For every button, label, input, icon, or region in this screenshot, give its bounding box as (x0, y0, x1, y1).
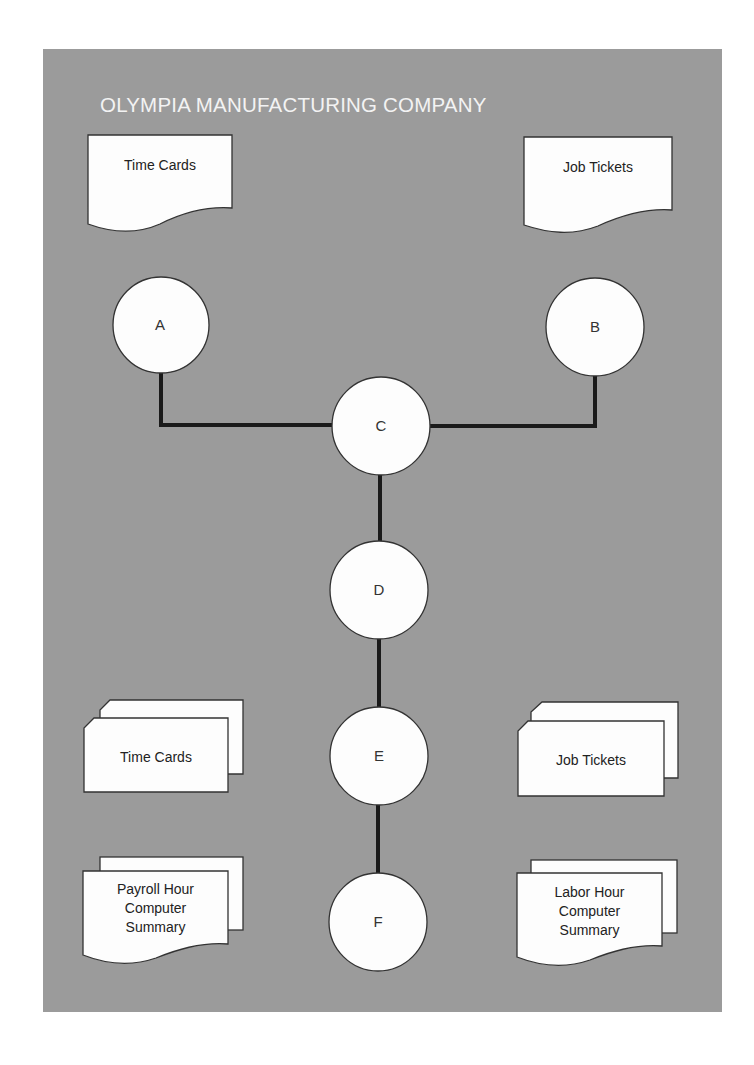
report-label-line: Computer (125, 899, 186, 918)
report-label-line: Summary (560, 921, 620, 940)
node-label-a: A (140, 315, 180, 335)
document-label-job-tickets: Job Tickets (524, 152, 672, 182)
card-deck-label-job-tickets: Job Tickets (518, 745, 664, 775)
node-label-f: F (358, 912, 398, 932)
report-label-line: Labor Hour (554, 883, 624, 902)
document-label-time-cards: Time Cards (88, 150, 232, 180)
node-label-c: C (361, 416, 401, 436)
report-label-line: Summary (126, 918, 186, 937)
report-label-line: Payroll Hour (117, 880, 194, 899)
report-label-line: Computer (559, 902, 620, 921)
connector-a-c (161, 373, 333, 425)
report-label-labor: Labor Hour Computer Summary (517, 880, 662, 942)
node-label-e: E (359, 746, 399, 766)
card-deck-label-time-cards: Time Cards (84, 742, 228, 772)
report-label-payroll: Payroll Hour Computer Summary (83, 877, 228, 939)
node-label-b: B (575, 317, 615, 337)
node-label-d: D (359, 580, 399, 600)
diagram-title: OLYMPIA MANUFACTURING COMPANY (100, 93, 680, 117)
connector-b-c (430, 376, 595, 426)
